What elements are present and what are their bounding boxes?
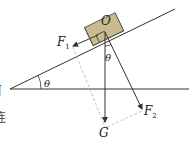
dashed-g-to-f2 (107, 111, 142, 127)
incline-angle-arc (38, 75, 41, 89)
f2-arrow (105, 32, 142, 109)
dashed-f1-to-g (73, 47, 105, 127)
label-o: O (101, 14, 111, 28)
incline-line (10, 9, 175, 89)
label-incline-theta: θ (44, 78, 50, 89)
label-g: G (99, 126, 109, 140)
label-force-theta: θ (105, 52, 111, 63)
incline-force-diagram: O F1 F2 G θ θ J 连 (0, 0, 192, 145)
edge-fragment-1: J (0, 84, 2, 98)
edge-fragment-2: 连 (0, 110, 6, 125)
force-angle-arc (105, 45, 111, 46)
label-f1: F1 (56, 35, 70, 51)
label-f2: F2 (143, 104, 157, 120)
